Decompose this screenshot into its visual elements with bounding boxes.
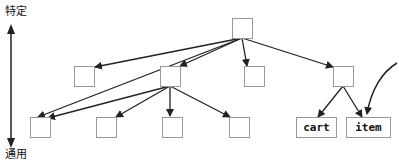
level2-node [30,117,51,138]
level1-node [333,66,354,87]
level2-node [96,117,117,138]
level1-node [160,66,181,87]
specificity-axis-arrow [7,24,15,148]
level1-node [244,66,265,87]
root-node [232,18,253,39]
level2-node [162,117,183,138]
curved-pointer-arrow [367,63,397,114]
item-node: item [346,117,391,138]
level2-node [229,117,250,138]
cart-node: cart [296,117,337,138]
level1-node [74,66,95,87]
